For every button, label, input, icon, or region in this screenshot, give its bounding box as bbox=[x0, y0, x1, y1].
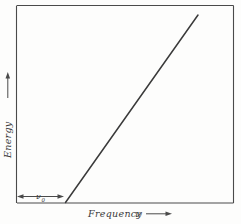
energy-frequency-line bbox=[66, 15, 199, 203]
y-axis-label-group: Energy bbox=[2, 72, 13, 159]
plot-frame bbox=[17, 6, 234, 204]
y-axis-label-text: Energy bbox=[2, 121, 13, 159]
figure-panel: ν 0 --> Frequency ν rotated --> Energy bbox=[0, 0, 241, 224]
x-axis-label-group: Frequency ν bbox=[87, 208, 172, 219]
threshold-symbol-subscript: 0 bbox=[42, 197, 46, 203]
x-axis-arrow-head bbox=[166, 212, 173, 217]
y-axis-arrow-head bbox=[6, 72, 11, 79]
x-axis-symbol-nu: ν bbox=[135, 208, 141, 219]
chart-canvas: ν 0 --> Frequency ν rotated --> Energy bbox=[0, 0, 241, 224]
threshold-arrow-head-right bbox=[58, 194, 65, 199]
data-series-line bbox=[66, 15, 199, 203]
threshold-arrow-head-left bbox=[17, 194, 24, 199]
threshold-symbol-nu: ν bbox=[36, 192, 41, 201]
threshold-annotation: ν 0 bbox=[17, 192, 64, 203]
